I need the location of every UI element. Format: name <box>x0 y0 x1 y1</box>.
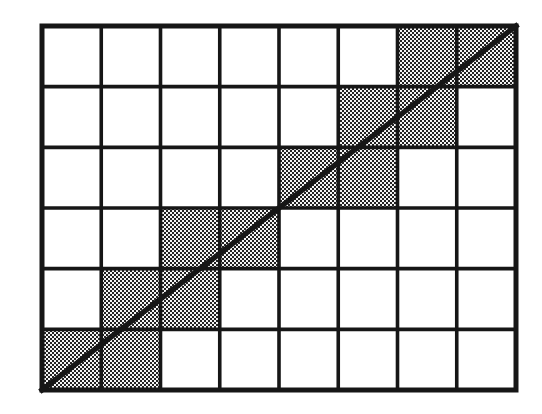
grid-cell-empty <box>101 208 160 269</box>
grid-cell-empty <box>279 87 338 148</box>
figure-root: Grid with diagonal crossing shaded unit … <box>0 0 542 414</box>
grid-cell-empty <box>457 147 516 208</box>
grid-cell-empty <box>161 87 220 148</box>
grid-cell-empty <box>279 269 338 330</box>
grid-cell-empty <box>338 269 397 330</box>
grid-cell-empty <box>338 208 397 269</box>
grid-cell-empty <box>338 26 397 87</box>
grid-cell-empty <box>338 329 397 390</box>
grid-cell-empty <box>220 147 279 208</box>
grid-cell-empty <box>220 87 279 148</box>
grid-cell-empty <box>220 269 279 330</box>
grid-cell-empty <box>398 147 457 208</box>
grid-cell-empty <box>101 87 160 148</box>
grid-cell-empty <box>42 269 101 330</box>
grid-cell-empty <box>220 26 279 87</box>
grid-cell-empty <box>398 208 457 269</box>
grid-cell-empty <box>457 329 516 390</box>
grid-cell-empty <box>279 329 338 390</box>
grid-cell-empty <box>457 208 516 269</box>
grid-cell-empty <box>279 26 338 87</box>
grid-cell-empty <box>42 26 101 87</box>
grid-cell-empty <box>398 329 457 390</box>
grid-cell-empty <box>161 147 220 208</box>
grid-cell-empty <box>42 87 101 148</box>
grid-cell-empty <box>101 26 160 87</box>
grid-cell-empty <box>220 329 279 390</box>
grid-cell-empty <box>279 208 338 269</box>
grid-cell-empty <box>161 329 220 390</box>
grid-cell-empty <box>42 147 101 208</box>
grid-cell-empty <box>457 87 516 148</box>
grid-cell-empty <box>101 147 160 208</box>
grid-cell-empty <box>398 269 457 330</box>
grid-cell-empty <box>42 208 101 269</box>
grid-cell-empty <box>161 26 220 87</box>
grid-diagonal-figure: Grid with diagonal crossing shaded unit … <box>0 0 542 414</box>
grid-cell-empty <box>457 269 516 330</box>
